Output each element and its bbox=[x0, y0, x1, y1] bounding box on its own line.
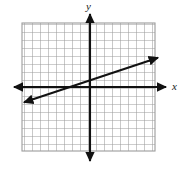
y-axis-label: y bbox=[86, 1, 91, 12]
coordinate-plane-figure: y x bbox=[0, 0, 191, 172]
x-axis-label: x bbox=[172, 81, 177, 92]
graph-canvas bbox=[0, 0, 191, 172]
